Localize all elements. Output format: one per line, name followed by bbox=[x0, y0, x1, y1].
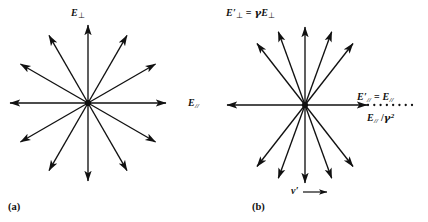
label-e-parallel-a: E// bbox=[188, 98, 199, 110]
subscript-perpendicular: ⊥ bbox=[236, 11, 243, 20]
field-vector bbox=[305, 105, 332, 178]
field-vector bbox=[257, 44, 305, 105]
field-vector bbox=[305, 32, 332, 105]
dotted-extension-dot bbox=[379, 104, 381, 106]
subscript-perpendicular: ⊥ bbox=[78, 11, 85, 20]
symbol-gamma: γ bbox=[384, 112, 391, 123]
symbol-e-prime: E bbox=[357, 91, 364, 102]
field-vector bbox=[49, 103, 88, 171]
field-vector bbox=[49, 35, 88, 103]
subscript-parallel: // bbox=[374, 117, 378, 125]
panel-b-dotted-extension bbox=[367, 104, 413, 106]
field-vector bbox=[278, 32, 305, 105]
field-vector bbox=[88, 103, 127, 171]
symbol-e-prime: E bbox=[226, 7, 233, 18]
symbol-e: E bbox=[188, 97, 195, 108]
prime-mark: ′ bbox=[296, 185, 299, 196]
equals-sign: = bbox=[246, 7, 252, 18]
subscript-perpendicular-rhs: ⊥ bbox=[268, 11, 275, 20]
label-velocity-prime-b: v′ bbox=[291, 186, 299, 196]
panel-caption-a: (a) bbox=[8, 201, 20, 212]
dotted-extension-dot bbox=[367, 104, 369, 106]
dotted-extension-dot bbox=[405, 104, 407, 106]
field-vector bbox=[20, 103, 88, 142]
field-vectors-svg bbox=[0, 0, 428, 222]
field-vector bbox=[20, 64, 88, 103]
dotted-extension-dot bbox=[373, 104, 375, 106]
subscript-parallel-rhs: // bbox=[389, 96, 393, 104]
dotted-extension-dot bbox=[386, 104, 388, 106]
field-vector bbox=[278, 105, 305, 178]
equals-sign: = bbox=[374, 91, 380, 102]
field-vector bbox=[88, 103, 156, 142]
panel-a-charge-center bbox=[85, 100, 91, 106]
label-e-parallel-over-gamma-squared-b: E// /γ2 bbox=[367, 113, 394, 125]
label-e-perpendicular-prime-b: E′⊥ = γE⊥ bbox=[226, 8, 275, 20]
panel-b-charge-center bbox=[302, 102, 308, 108]
field-vector bbox=[305, 105, 353, 166]
field-vector bbox=[305, 44, 353, 105]
field-vector bbox=[88, 64, 156, 103]
dotted-extension-dot bbox=[392, 104, 394, 106]
symbol-e: E bbox=[71, 7, 78, 18]
figure-root: E⊥ E// E′⊥ = γE⊥ E′// = E// E// /γ2 v′ (… bbox=[0, 0, 428, 222]
label-e-parallel-prime-b: E′// = E// bbox=[357, 92, 394, 104]
symbol-e: E bbox=[367, 112, 374, 123]
panel-b-field-vectors bbox=[227, 27, 367, 183]
panel-caption-b: (b) bbox=[252, 201, 265, 212]
dotted-extension-dot bbox=[398, 104, 400, 106]
subscript-parallel: // bbox=[195, 102, 199, 110]
dotted-extension-dot bbox=[411, 104, 413, 106]
exponent-two: 2 bbox=[391, 112, 395, 120]
subscript-parallel: // bbox=[367, 96, 371, 104]
field-vector bbox=[257, 105, 305, 166]
label-e-perpendicular-a: E⊥ bbox=[71, 8, 85, 20]
field-vector bbox=[88, 35, 127, 103]
